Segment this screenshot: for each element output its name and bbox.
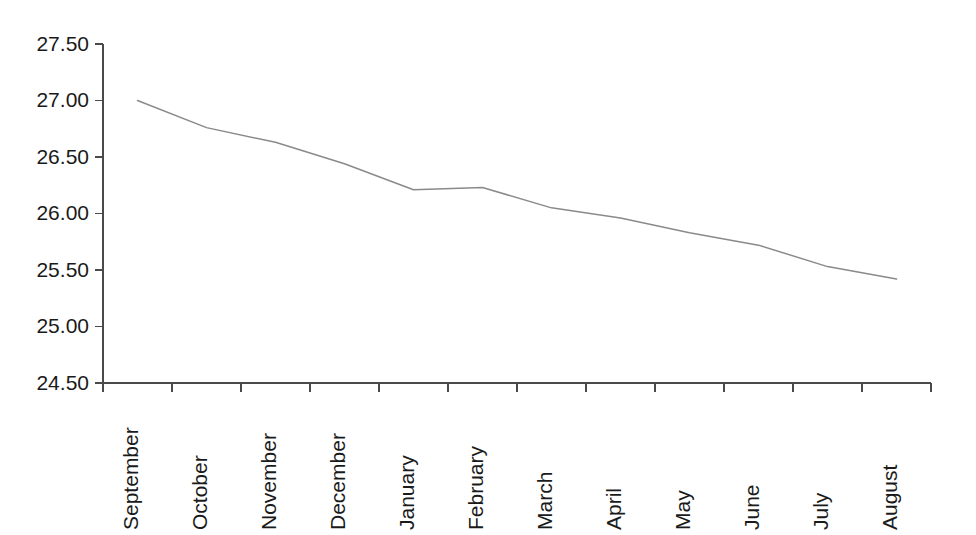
x-tick-label: March bbox=[533, 472, 556, 530]
y-tick-label: 26.50 bbox=[36, 145, 89, 168]
y-tick-label: 26.00 bbox=[36, 201, 89, 224]
y-axis-tick-labels: 27.5027.0026.5026.0025.5025.0024.50 bbox=[36, 32, 89, 394]
y-tick-label: 27.00 bbox=[36, 88, 89, 111]
y-tick-label: 25.50 bbox=[36, 258, 89, 281]
x-tick-label: February bbox=[464, 445, 487, 530]
x-tick-label: December bbox=[326, 433, 349, 530]
line-chart-figure: 27.5027.0026.5026.0025.5025.0024.50 Sept… bbox=[0, 0, 976, 535]
chart-canvas: 27.5027.0026.5026.0025.5025.0024.50 Sept… bbox=[0, 0, 976, 535]
series-line-path bbox=[138, 101, 897, 280]
x-tick-label: November bbox=[257, 433, 280, 530]
data-series-line bbox=[138, 101, 897, 280]
x-axis bbox=[103, 383, 931, 392]
x-tick-label: October bbox=[188, 455, 211, 530]
x-tick-label: September bbox=[119, 427, 142, 530]
y-axis bbox=[95, 44, 103, 383]
x-tick-label: April bbox=[602, 488, 625, 530]
y-tick-label: 27.50 bbox=[36, 32, 89, 55]
y-tick-label: 25.00 bbox=[36, 314, 89, 337]
x-tick-label: August bbox=[878, 464, 901, 530]
x-axis-tick-labels: SeptemberOctoberNovemberDecemberJanuaryF… bbox=[119, 427, 901, 530]
x-tick-label: January bbox=[395, 455, 418, 530]
y-tick-label: 24.50 bbox=[36, 371, 89, 394]
x-tick-label: July bbox=[809, 492, 832, 530]
x-tick-label: May bbox=[671, 490, 694, 530]
x-tick-label: June bbox=[740, 484, 763, 530]
